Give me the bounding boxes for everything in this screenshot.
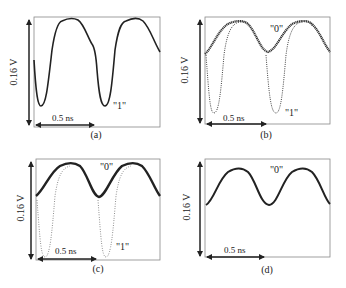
waveform-trace [34,18,160,106]
x-scale-label: 0.5 ns [55,246,77,256]
panel-caption: (a) [90,129,101,141]
panel-b: 0.16 V 0.5 ns "0" "1" (b) [179,17,330,141]
eye-diagram-figure: 0.16 V 0.5 ns "1" (a) 0.16 V 0.5 ns "0" … [0,0,346,288]
bit-zero-label: "0" [270,23,283,34]
one-trace [37,166,70,257]
one-trace [266,22,312,113]
panel-caption: (c) [92,263,103,275]
zero-trace [205,21,330,54]
panel-caption: (b) [260,129,272,141]
panel-a: 0.16 V 0.5 ns "1" (a) [8,17,160,141]
bit-zero-label: "0" [270,164,283,175]
panel-c: 0.16 V 0.5 ns "0" "1" (c) [15,159,160,275]
y-scale-label: 0.16 V [15,194,26,222]
y-scale-label: 0.16 V [179,56,190,84]
bit-one-label: "1" [285,107,298,118]
zero-trace [36,163,160,197]
bit-one-label: "1" [116,241,129,252]
zero-trace [206,168,330,205]
plot-frame [36,159,160,260]
panel-caption: (d) [261,264,273,276]
one-trace [206,22,250,113]
x-scale-label: 0.5 ns [52,113,74,123]
bit-zero-label: "0" [100,161,113,172]
bit-one-label: "1" [113,100,126,111]
x-scale-label: 0.5 ns [223,113,245,123]
y-scale-label: 0.16 V [8,58,19,86]
plot-frame [205,159,330,257]
panel-d: 0.16 V 0.5 ns "0" (d) [181,159,330,276]
x-scale-label: 0.5 ns [224,245,246,255]
y-scale-label: 0.16 V [181,193,192,221]
